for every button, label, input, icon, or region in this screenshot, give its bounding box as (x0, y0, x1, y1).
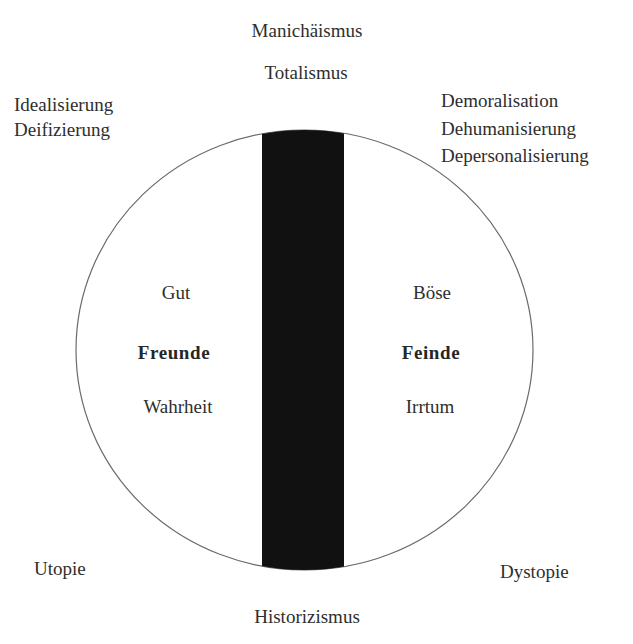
label-totalismus: Totalismus (264, 62, 347, 84)
label-feinde: Feinde (402, 342, 461, 364)
top-left-labels: Idealisierung Deifizierung (14, 91, 113, 143)
label-depersonalisierung: Depersonalisierung (441, 142, 589, 170)
label-gut: Gut (162, 282, 191, 304)
label-idealisierung: Idealisierung (14, 91, 113, 119)
label-manichaeismus: Manichäismus (252, 20, 363, 42)
label-utopie: Utopie (34, 558, 86, 580)
label-wahrheit: Wahrheit (143, 396, 212, 418)
label-demoralisation: Demoralisation (441, 87, 589, 115)
label-dehumanisierung: Dehumanisierung (441, 115, 589, 143)
label-irrtum: Irrtum (406, 396, 455, 418)
divider-bar (262, 120, 344, 580)
label-boese: Böse (413, 282, 451, 304)
label-deifizierung: Deifizierung (14, 116, 113, 144)
label-dystopie: Dystopie (500, 561, 569, 583)
label-historizismus: Historizismus (254, 606, 360, 628)
label-freunde: Freunde (138, 342, 210, 364)
top-right-labels: Demoralisation Dehumanisierung Depersona… (441, 87, 589, 170)
